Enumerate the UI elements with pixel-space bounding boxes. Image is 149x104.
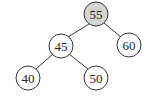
tree-diagram: 55 45 60 40 50 [0, 0, 149, 104]
edge-45-40 [36, 54, 53, 69]
node-label: 55 [90, 7, 103, 22]
node-45: 45 [49, 34, 73, 58]
node-label: 60 [123, 38, 136, 53]
node-label: 40 [22, 71, 35, 86]
node-50: 50 [84, 66, 108, 90]
node-label: 45 [55, 39, 68, 54]
node-40: 40 [16, 66, 40, 90]
edge-55-60 [104, 23, 121, 37]
edge-45-50 [69, 54, 88, 69]
node-55: 55 [84, 2, 108, 26]
edge-55-45 [68, 24, 89, 37]
node-60: 60 [117, 33, 141, 57]
node-label: 50 [90, 71, 103, 86]
